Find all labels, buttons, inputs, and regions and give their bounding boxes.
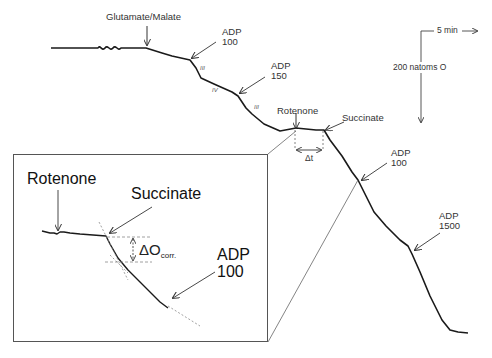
- inset-label-delta-o-subscript: corr.: [161, 251, 177, 260]
- inset-label-succinate: Succinate: [131, 186, 201, 203]
- arrow-adp-100-second: [362, 163, 387, 180]
- inset-arrow-adp-100: [173, 272, 215, 298]
- inset-tangent-dash-3: [110, 255, 128, 273]
- inset-label-adp-100: ADP 100: [217, 247, 250, 281]
- arrow-adp-100-first: [192, 42, 216, 58]
- label-glutamate-malate: Glutamate/Malate: [106, 12, 181, 22]
- inset-label-delta-o: ΔOcorr.: [139, 242, 176, 260]
- label-adp-150-line2: 150: [271, 71, 291, 81]
- label-scale-time: 5 min: [436, 26, 459, 35]
- arrow-adp-150: [240, 77, 265, 93]
- label-rotenone: Rotenone: [277, 106, 318, 116]
- label-state-iv: IV: [212, 87, 218, 93]
- main-oxygen-trace: [51, 47, 468, 333]
- label-adp-100-first-line2: 100: [222, 37, 242, 47]
- label-state-iii-second: III: [254, 104, 259, 110]
- inset-label-adp-line1: ADP: [217, 247, 250, 264]
- arrow-succinate: [326, 122, 344, 130]
- inset-label-delta-o-main: ΔO: [139, 241, 161, 258]
- arrow-adp-1500: [415, 233, 440, 250]
- label-adp-100-second-line2: 100: [391, 158, 411, 168]
- label-scale-oxygen: 200 natoms O: [393, 62, 446, 73]
- label-delta-t: Δt: [305, 154, 313, 163]
- label-adp-1500-line2: 1500: [439, 221, 460, 231]
- label-adp-1500: ADP 1500: [439, 211, 460, 231]
- inset-label-adp-line2: 100: [217, 264, 250, 281]
- zoom-connector-top: [268, 131, 296, 154]
- inset-tangent-dash-2: [168, 306, 200, 326]
- label-adp-100-second: ADP 100: [391, 148, 411, 168]
- label-succinate: Succinate: [342, 113, 384, 123]
- inset-arrow-succinate: [110, 207, 152, 233]
- inset-label-rotenone: Rotenone: [27, 171, 96, 188]
- label-adp-150: ADP 150: [271, 61, 291, 81]
- zoom-connector-bottom: [268, 180, 358, 342]
- label-state-iii-first: III: [200, 65, 205, 71]
- label-adp-100-first: ADP 100: [222, 27, 242, 47]
